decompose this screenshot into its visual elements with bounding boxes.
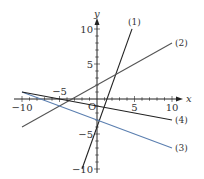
x-tick-label: 10 <box>166 102 179 113</box>
x-tick-label: −5 <box>52 86 67 97</box>
series-label-2: (2) <box>175 38 188 48</box>
y-axis-arrow-icon <box>95 18 100 25</box>
x-tick-label: 5 <box>131 102 137 113</box>
y-tick-label: 5 <box>87 59 93 70</box>
series-label-3: (3) <box>175 143 188 153</box>
x-tick-label: −10 <box>11 102 32 113</box>
y-axis-label: y <box>93 8 100 19</box>
plot-lines: (1)(2)(3)(4) <box>22 17 188 169</box>
y-tick-label: −5 <box>78 129 93 140</box>
series-label-4: (4) <box>175 115 188 125</box>
x-axis-label: x <box>186 93 192 104</box>
chart: x y O −10−5510−10−5510 (1)(2)(3)(4) <box>0 0 204 179</box>
y-tick-label: 10 <box>80 24 93 35</box>
axes: x y O −10−5510−10−5510 <box>11 8 192 175</box>
series-label-1: (1) <box>128 17 141 27</box>
x-axis-arrow-icon <box>176 97 183 102</box>
origin-label: O <box>88 101 96 112</box>
